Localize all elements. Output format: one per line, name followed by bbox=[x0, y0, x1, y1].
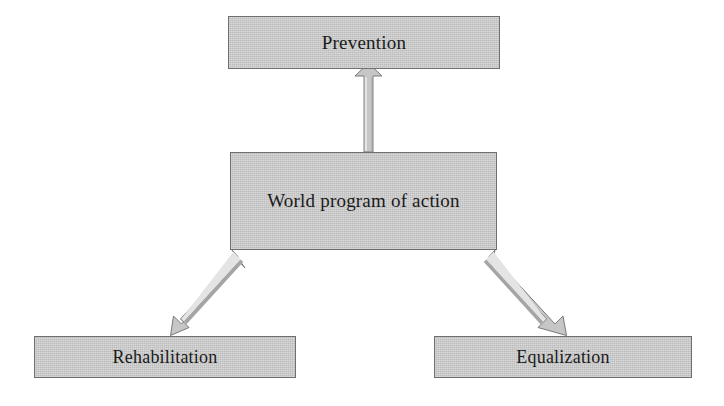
node-rehabilitation[interactable]: Rehabilitation bbox=[34, 336, 296, 378]
arrow-center-to-prevention bbox=[355, 63, 382, 152]
arrow-center-to-equalization bbox=[484, 250, 567, 336]
arrow-center-to-rehabilitation bbox=[171, 250, 246, 336]
node-prevention[interactable]: Prevention bbox=[228, 16, 500, 69]
diagram-canvas: Prevention World program of action Rehab… bbox=[0, 0, 724, 406]
node-world-program-of-action-label: World program of action bbox=[267, 190, 460, 212]
node-world-program-of-action[interactable]: World program of action bbox=[230, 152, 497, 250]
node-rehabilitation-label: Rehabilitation bbox=[113, 347, 218, 368]
node-equalization[interactable]: Equalization bbox=[434, 336, 692, 378]
node-equalization-label: Equalization bbox=[516, 347, 609, 368]
node-prevention-label: Prevention bbox=[322, 32, 406, 54]
